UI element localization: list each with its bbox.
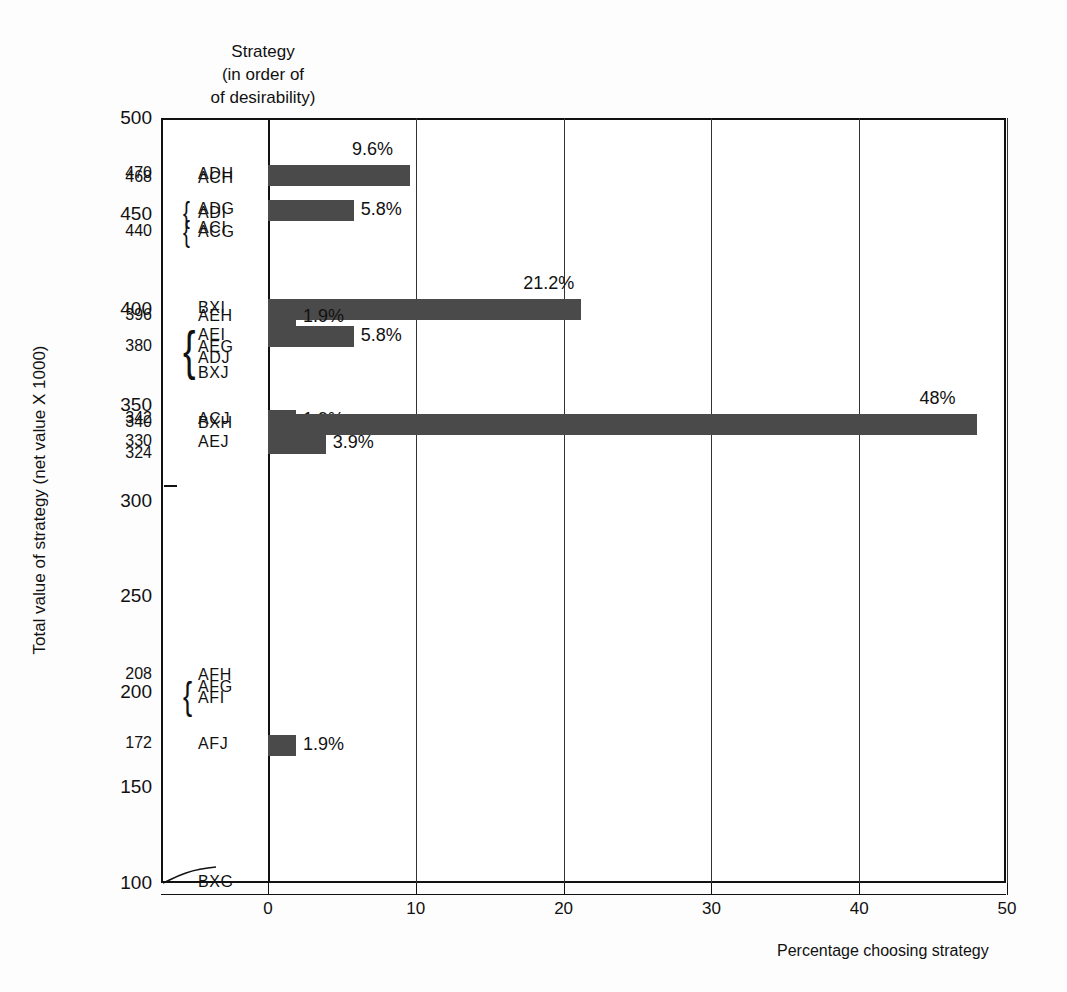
bar-value-label-ADH: 9.6% [352, 139, 393, 160]
x-tick-label-40: 40 [850, 899, 869, 919]
bar-ADG [268, 200, 354, 221]
x-tick-mark-30 [711, 883, 712, 895]
y-tick-minor-440: 440 [125, 222, 152, 240]
strategy-label-AFI: AFI [198, 689, 225, 707]
y-tick-minor-380: 380 [125, 337, 152, 355]
y-tick-major-150: 150 [120, 776, 152, 798]
y-tick-major-300: 300 [120, 490, 152, 512]
strategy-label-BXJ: BXJ [198, 364, 229, 382]
x-tick-label-20: 20 [554, 899, 573, 919]
bar-value-label-ADG: 5.8% [361, 199, 402, 220]
y-tick-minor-396: 396 [125, 306, 152, 324]
strategy-label-ACH: ACH [198, 169, 234, 187]
y-tick-minor-172: 172 [125, 734, 152, 752]
x-tick-mark-0 [268, 883, 269, 895]
bar-value-label-AEI: 5.8% [361, 325, 402, 346]
bar-AEJ [268, 433, 326, 454]
strategy-label-BXH: BXH [198, 414, 233, 432]
x-tick-mark-10 [416, 883, 417, 895]
y-axis-title: Total value of strategy (net value X 100… [30, 320, 50, 680]
x-tick-label-0: 0 [263, 899, 272, 919]
bar-value-label-AEJ: 3.9% [333, 432, 374, 453]
strategy-label-AFJ: AFJ [198, 735, 228, 753]
brace-AFG-AFI: { [183, 676, 192, 715]
bar-AEI [268, 326, 354, 347]
x-tick-label-50: 50 [998, 899, 1017, 919]
bxg-leader-line [161, 840, 221, 885]
x-tick-label-10: 10 [406, 899, 425, 919]
bar-AFJ [268, 735, 296, 756]
strategy-label-AEH: AEH [198, 307, 233, 325]
chart-page: Strategy (in order of of desirability) 5… [0, 0, 1067, 992]
bar-value-label-BXI: 21.2% [523, 273, 574, 294]
y-tick-major-200: 200 [120, 681, 152, 703]
bar-AEH [268, 307, 296, 328]
x-axis-title: Percentage choosing strategy [777, 942, 989, 960]
y-tick-minor-208: 208 [125, 665, 152, 683]
bar-value-label-AEH: 1.9% [303, 306, 344, 327]
y-tick-minor-340: 340 [125, 413, 152, 431]
x-tick-mark-40 [859, 883, 860, 895]
y-tick-major-250: 250 [120, 585, 152, 607]
bar-ADH [268, 165, 410, 186]
strategy-label-AEJ: AEJ [198, 433, 229, 451]
y-tick-major-100: 100 [120, 872, 152, 894]
y-tick-major-500: 500 [120, 107, 152, 129]
bar-BXH [268, 414, 977, 435]
x-axis-line [161, 894, 1006, 895]
brace-AEI-AEG-ADJ: { [183, 324, 196, 378]
bar-value-label-BXH: 48% [919, 388, 955, 409]
x-tick-mark-20 [564, 883, 565, 895]
brace-ACI-ACG: { [183, 217, 190, 247]
x-tick-mark-50 [1007, 883, 1008, 895]
y-tick-minor-324: 324 [125, 444, 152, 462]
strategy-label-ACG: ACG [198, 223, 234, 241]
y-tick-minor-468: 468 [125, 168, 152, 186]
x-tick-label-30: 30 [702, 899, 721, 919]
bar-value-label-AFJ: 1.9% [303, 734, 344, 755]
